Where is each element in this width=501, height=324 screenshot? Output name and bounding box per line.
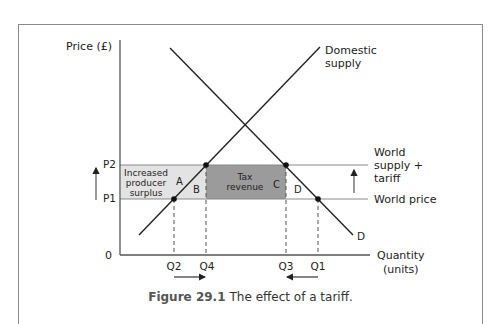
x-axis-label-line1: Quantity <box>377 249 425 262</box>
p1-label: P1 <box>103 192 116 204</box>
world-price-label: World price <box>374 193 437 206</box>
surplus-label-line3: surplus <box>130 188 163 198</box>
world-tariff-label-line2: supply + <box>374 159 423 172</box>
figure-title: The effect of a tariff. <box>230 290 353 304</box>
region-b-label: B <box>193 184 200 195</box>
region-a-label: A <box>176 176 183 187</box>
figure-caption: Figure 29.1The effect of a tariff. <box>0 290 501 304</box>
q3-label: Q3 <box>279 260 294 272</box>
x-axis-label-line2: (units) <box>383 263 419 276</box>
demand-curve <box>170 48 353 235</box>
world-tariff-label-line1: World <box>374 146 406 159</box>
q2-label: Q2 <box>167 260 182 272</box>
figure-number: Figure 29.1 <box>148 290 225 304</box>
q4-label: Q4 <box>200 260 215 272</box>
region-c-label: C <box>273 179 280 190</box>
region-d-label: D <box>294 184 302 195</box>
domestic-supply-curve <box>139 47 320 235</box>
p2-label: P2 <box>103 158 116 170</box>
tax-label-line1: Tax <box>237 172 254 182</box>
demand-label: D <box>357 230 365 242</box>
surplus-label-line1: Increased <box>124 168 168 178</box>
supply-label-line2: supply <box>325 57 362 70</box>
q1-label: Q1 <box>311 260 326 272</box>
supply-label-line1: Domestic <box>325 44 377 57</box>
tax-label-line2: revenue <box>227 182 264 192</box>
y-axis-label: Price (£) <box>66 40 112 53</box>
surplus-label-line2: producer <box>126 178 167 188</box>
origin-label: 0 <box>105 249 112 262</box>
world-tariff-label-line3: tariff <box>374 172 401 185</box>
